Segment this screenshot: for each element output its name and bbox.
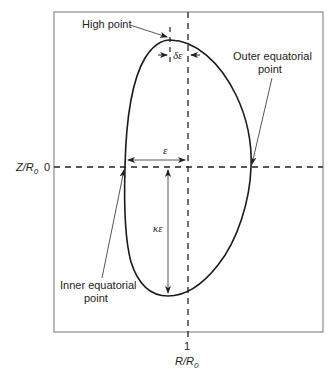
y-axis-tick-0: 0 <box>44 161 50 173</box>
high-point-pointer <box>130 25 167 37</box>
outer-equatorial-pointer <box>252 78 272 164</box>
inner-equatorial-pointer <box>102 170 124 278</box>
x-axis-tick-1: 1 <box>184 340 190 352</box>
inner-equatorial-label-line1: Inner equatorial <box>60 279 136 291</box>
eps-label: ε <box>163 144 168 156</box>
y-axis-label: Z/R0 <box>15 161 39 176</box>
outer-equatorial-label-line1: Outer equatorial <box>233 50 312 62</box>
outer-equatorial-label-line2: point <box>258 63 282 75</box>
plasma-shape-diagram: δε ε κε High point Outer equatorial poin… <box>0 0 334 369</box>
delta-eps-label: δε <box>173 49 183 61</box>
inner-equatorial-label-line2: point <box>84 292 108 304</box>
high-point-label: High point <box>82 18 132 30</box>
x-axis-label: R/R0 <box>175 355 199 369</box>
kappa-eps-label: κε <box>153 222 163 234</box>
